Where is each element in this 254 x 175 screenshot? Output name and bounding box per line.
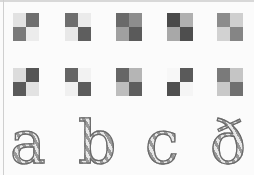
decorative-letter: ð — [210, 112, 246, 172]
checker-cell — [26, 68, 39, 82]
checker-cell — [78, 27, 91, 41]
checker-square — [116, 13, 142, 41]
checker-cell — [230, 27, 243, 41]
checker-cell — [13, 82, 26, 96]
checker-square — [65, 13, 91, 41]
checker-cell — [116, 27, 129, 41]
checker-cell — [167, 68, 180, 82]
checker-cell — [65, 68, 78, 82]
checker-cell — [129, 27, 142, 41]
checker-cell — [217, 82, 230, 96]
checker-square — [13, 68, 39, 96]
checker-cell — [26, 82, 39, 96]
checker-square — [167, 13, 193, 41]
checker-cell — [65, 27, 78, 41]
checker-cell — [180, 13, 193, 27]
checker-cell — [13, 68, 26, 82]
checker-cell — [116, 13, 129, 27]
checker-cell — [129, 13, 142, 27]
checker-cell — [13, 27, 26, 41]
checker-cell — [180, 68, 193, 82]
checker-cell — [217, 68, 230, 82]
checker-cell — [217, 13, 230, 27]
checker-cell — [26, 27, 39, 41]
checker-cell — [65, 82, 78, 96]
checker-cell — [65, 13, 78, 27]
checker-cell — [230, 13, 243, 27]
checker-cell — [26, 13, 39, 27]
checker-square — [116, 68, 142, 96]
checker-cell — [167, 27, 180, 41]
checker-cell — [129, 68, 142, 82]
checker-cell — [78, 68, 91, 82]
checker-square — [13, 13, 39, 41]
checker-cell — [13, 13, 26, 27]
checker-cell — [180, 82, 193, 96]
checker-cell — [217, 27, 230, 41]
decorative-letter: a — [10, 112, 46, 172]
checker-square — [217, 68, 243, 96]
checker-cell — [167, 13, 180, 27]
checker-cell — [116, 68, 129, 82]
checker-square — [217, 13, 243, 41]
decorative-letter: b — [78, 112, 116, 172]
frame-top-edge — [0, 0, 254, 2]
checker-square — [167, 68, 193, 96]
checker-cell — [230, 82, 243, 96]
checker-cell — [129, 82, 142, 96]
checker-cell — [116, 82, 129, 96]
decorative-letter: c — [145, 112, 179, 172]
checker-cell — [78, 13, 91, 27]
checker-cell — [230, 68, 243, 82]
checker-square — [65, 68, 91, 96]
checker-cell — [167, 82, 180, 96]
checker-cell — [180, 27, 193, 41]
checker-cell — [78, 82, 91, 96]
frame-left-edge — [3, 0, 4, 175]
